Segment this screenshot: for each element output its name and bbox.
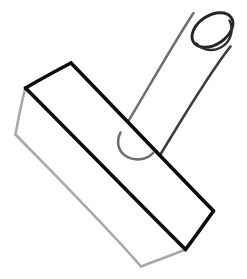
drawing-canvas: A black-and-white line drawing of a rubb… xyxy=(0,0,247,279)
line-drawing-svg xyxy=(0,0,247,279)
